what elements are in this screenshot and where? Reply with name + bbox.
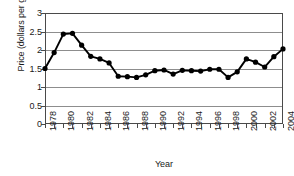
data-point-marker <box>271 54 276 59</box>
data-point-marker <box>171 71 176 76</box>
data-point-marker <box>52 50 57 55</box>
data-point-marker <box>180 68 185 73</box>
data-point-marker <box>42 66 47 71</box>
data-series-line <box>0 0 294 176</box>
data-point-marker <box>235 69 240 74</box>
data-point-marker <box>216 67 221 72</box>
data-point-marker <box>207 67 212 72</box>
data-point-marker <box>106 60 111 65</box>
data-point-marker <box>161 67 166 72</box>
data-point-marker <box>198 68 203 73</box>
data-point-marker <box>88 54 93 59</box>
data-point-marker <box>70 31 75 36</box>
data-point-marker <box>79 43 84 48</box>
data-point-marker <box>143 72 148 77</box>
data-point-marker <box>262 64 267 69</box>
data-point-marker <box>134 75 139 80</box>
data-point-marker <box>116 74 121 79</box>
data-point-marker <box>253 60 258 65</box>
data-point-marker <box>61 31 66 36</box>
data-point-marker <box>97 56 102 61</box>
gasoline-price-line-chart: Price (dollars per gallon) 00.511.522.53… <box>0 0 294 176</box>
data-point-marker <box>244 56 249 61</box>
data-point-marker <box>152 68 157 73</box>
data-point-marker <box>280 46 285 51</box>
x-axis-title: Year <box>45 160 283 169</box>
data-point-marker <box>225 75 230 80</box>
data-point-marker <box>189 68 194 73</box>
data-point-marker <box>125 74 130 79</box>
